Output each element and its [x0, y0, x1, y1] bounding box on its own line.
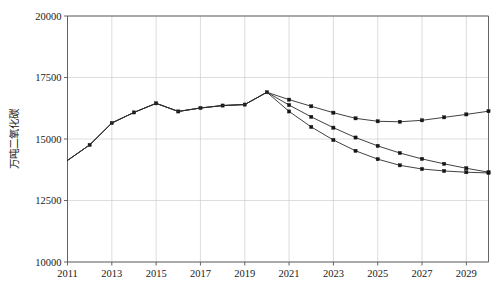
data-point-marker	[354, 136, 357, 139]
data-point-marker	[420, 119, 423, 122]
data-point-marker	[332, 138, 335, 141]
x-tick-label: 2021	[279, 268, 300, 279]
data-point-marker	[398, 120, 401, 123]
x-tick-label: 2017	[190, 268, 211, 279]
data-point-marker	[310, 115, 313, 118]
x-tick-label: 2025	[367, 268, 388, 279]
x-tick-label: 2027	[412, 268, 433, 279]
data-point-marker	[332, 126, 335, 129]
data-point-marker	[487, 171, 490, 174]
chart-canvas: 1000012500150001750020000 20112013201520…	[0, 0, 494, 291]
data-point-marker	[465, 171, 468, 174]
data-point-marker	[398, 164, 401, 167]
x-tick-label: 2019	[234, 268, 255, 279]
line-chart-figure: 1000012500150001750020000 20112013201520…	[0, 0, 494, 291]
series-2	[68, 92, 491, 174]
data-point-marker	[310, 105, 313, 108]
y-tick-label: 10000	[35, 257, 61, 268]
data-point-marker	[376, 144, 379, 147]
data-point-marker	[310, 125, 313, 128]
x-tick-label: 2029	[456, 268, 477, 279]
data-point-marker	[376, 158, 379, 161]
series-1	[68, 91, 491, 161]
y-axis-title: 万吨二氧化碳	[8, 108, 20, 169]
grid-layer	[68, 16, 489, 262]
x-tick-label: 2011	[57, 268, 78, 279]
y-tick-label: 17500	[35, 72, 61, 83]
data-point-marker	[443, 116, 446, 119]
data-point-marker	[420, 167, 423, 170]
data-point-marker	[443, 169, 446, 172]
series-line	[68, 92, 489, 160]
y-tick-label: 12500	[35, 195, 61, 206]
y-tick-label: 15000	[35, 134, 61, 145]
x-tick-label: 2023	[323, 268, 344, 279]
data-point-marker	[465, 113, 468, 116]
data-point-marker	[420, 157, 423, 160]
data-point-marker	[287, 103, 290, 106]
data-point-marker	[376, 120, 379, 123]
axis-layer	[64, 16, 489, 266]
data-point-marker	[354, 117, 357, 120]
data-point-marker	[332, 111, 335, 114]
data-point-marker	[354, 149, 357, 152]
x-tick-label-layer: 2011201320152017201920212023202520272029	[57, 268, 477, 279]
data-point-marker	[287, 98, 290, 101]
data-point-marker	[465, 167, 468, 170]
data-point-marker	[287, 110, 290, 113]
series-line	[68, 92, 489, 173]
series-3	[68, 92, 491, 174]
data-point-marker	[487, 110, 490, 113]
y-tick-label-layer: 1000012500150001750020000	[35, 11, 61, 268]
y-axis-title-text: 万吨二氧化碳	[8, 108, 20, 169]
data-point-marker	[398, 151, 401, 154]
series-layer	[68, 91, 491, 175]
y-tick-label: 20000	[35, 11, 61, 22]
screenshot-root: 1000012500150001750020000 20112013201520…	[0, 0, 494, 291]
x-tick-label: 2013	[101, 268, 122, 279]
series-line	[68, 92, 489, 172]
x-tick-label: 2015	[146, 268, 167, 279]
data-point-marker	[443, 162, 446, 165]
